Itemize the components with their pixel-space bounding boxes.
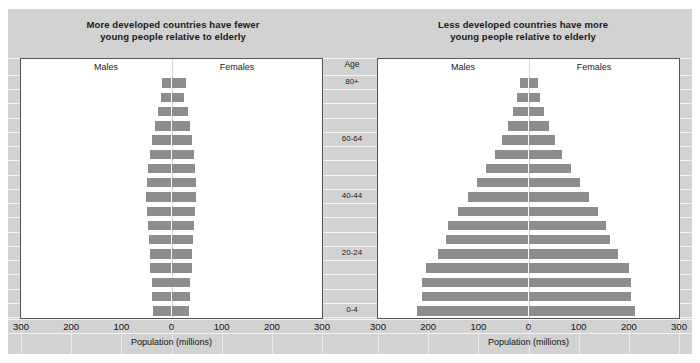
bar-row bbox=[21, 306, 322, 315]
bar-female bbox=[172, 178, 196, 187]
bar-male bbox=[152, 292, 171, 301]
bar-female bbox=[172, 306, 189, 315]
bar-row bbox=[21, 249, 322, 258]
bar-row bbox=[378, 135, 679, 144]
x-axis-tick-label: 100 bbox=[101, 321, 141, 332]
bar-female bbox=[529, 278, 632, 287]
bar-female bbox=[529, 164, 571, 173]
less-developed-plot: Males Females bbox=[377, 58, 680, 319]
age-row-separator bbox=[331, 217, 373, 218]
bar-row bbox=[378, 78, 679, 87]
bar-male bbox=[486, 164, 529, 173]
right-females-label: Females bbox=[549, 62, 639, 72]
right-panel-title-line2: young people relative to elderly bbox=[368, 31, 678, 43]
bar-female bbox=[172, 93, 185, 102]
bar-male bbox=[502, 135, 528, 144]
left-bar-group bbox=[21, 76, 322, 318]
age-row-separator bbox=[331, 274, 373, 275]
bar-row bbox=[378, 278, 679, 287]
right-x-axis-title: Population (millions) bbox=[377, 337, 680, 347]
bar-male bbox=[520, 78, 529, 87]
bar-female bbox=[529, 235, 611, 244]
bar-male bbox=[147, 178, 171, 187]
age-row-separator bbox=[331, 160, 373, 161]
bar-female bbox=[529, 221, 607, 230]
x-axis-tick-label: 100 bbox=[202, 321, 242, 332]
bar-row bbox=[21, 107, 322, 116]
bar-male bbox=[422, 292, 528, 301]
bar-female bbox=[172, 107, 188, 116]
bar-male bbox=[153, 306, 171, 315]
bar-female bbox=[529, 93, 540, 102]
age-tick-label: 60-64 bbox=[331, 134, 373, 143]
age-row-separator bbox=[331, 203, 373, 204]
bar-female bbox=[172, 221, 194, 230]
age-row-separator bbox=[331, 103, 373, 104]
bar-row bbox=[21, 235, 322, 244]
left-males-label: Males bbox=[61, 62, 151, 72]
age-row-separator bbox=[331, 232, 373, 233]
age-tick-label: 40-44 bbox=[331, 191, 373, 200]
bar-row bbox=[378, 292, 679, 301]
bar-row bbox=[21, 78, 322, 87]
bar-male bbox=[508, 121, 528, 130]
bar-male bbox=[150, 263, 171, 272]
bar-female bbox=[529, 135, 555, 144]
bar-male bbox=[513, 107, 528, 116]
bar-male bbox=[417, 306, 528, 315]
age-row-separator bbox=[331, 132, 373, 133]
bar-row bbox=[21, 207, 322, 216]
x-axis-tick-label: 300 bbox=[302, 321, 342, 332]
bar-male bbox=[152, 278, 172, 287]
x-axis-tick-label: 100 bbox=[458, 321, 498, 332]
bar-female bbox=[172, 207, 195, 216]
bar-row bbox=[378, 107, 679, 116]
age-axis-column: Age 0-420-2440-4460-6480+ bbox=[331, 58, 373, 319]
bar-male bbox=[155, 121, 171, 130]
bar-male bbox=[448, 221, 528, 230]
bar-row bbox=[378, 263, 679, 272]
left-panel-title: More developed countries have fewer youn… bbox=[18, 19, 328, 42]
bar-female bbox=[172, 164, 196, 173]
bar-male bbox=[446, 235, 529, 244]
x-axis-tick-label: 300 bbox=[358, 321, 398, 332]
bar-row bbox=[21, 178, 322, 187]
bar-row bbox=[378, 178, 679, 187]
age-row-separator bbox=[331, 303, 373, 304]
bar-female bbox=[172, 78, 186, 87]
x-axis-tick-label: 100 bbox=[559, 321, 599, 332]
bar-female bbox=[529, 207, 598, 216]
bar-female bbox=[529, 178, 581, 187]
bar-female bbox=[529, 107, 544, 116]
bar-row bbox=[378, 164, 679, 173]
bar-female bbox=[172, 278, 191, 287]
bar-female bbox=[529, 78, 539, 87]
left-x-axis: 3002001000100200300 bbox=[20, 321, 323, 335]
bar-row bbox=[21, 93, 322, 102]
bar-male bbox=[517, 93, 528, 102]
age-row-separator bbox=[331, 146, 373, 147]
bar-row bbox=[21, 164, 322, 173]
bar-row bbox=[378, 221, 679, 230]
right-panel-title: Less developed countries have more young… bbox=[368, 19, 678, 42]
bar-female bbox=[172, 121, 190, 130]
x-axis-tick-label: 200 bbox=[51, 321, 91, 332]
left-panel-title-line1: More developed countries have fewer bbox=[18, 19, 328, 31]
bar-female bbox=[172, 235, 193, 244]
x-axis-tick-label: 200 bbox=[252, 321, 292, 332]
bar-male bbox=[158, 107, 172, 116]
bar-male bbox=[146, 192, 171, 201]
age-row-separator bbox=[331, 246, 373, 247]
bar-male bbox=[162, 78, 172, 87]
bar-male bbox=[458, 207, 528, 216]
age-row-separator bbox=[331, 260, 373, 261]
bar-row bbox=[378, 306, 679, 315]
bar-row bbox=[378, 249, 679, 258]
bar-row bbox=[21, 121, 322, 130]
bar-female bbox=[529, 249, 618, 258]
bar-male bbox=[161, 93, 171, 102]
bar-male bbox=[426, 263, 529, 272]
age-row-separator bbox=[331, 175, 373, 176]
bar-row bbox=[378, 235, 679, 244]
bar-male bbox=[468, 192, 528, 201]
